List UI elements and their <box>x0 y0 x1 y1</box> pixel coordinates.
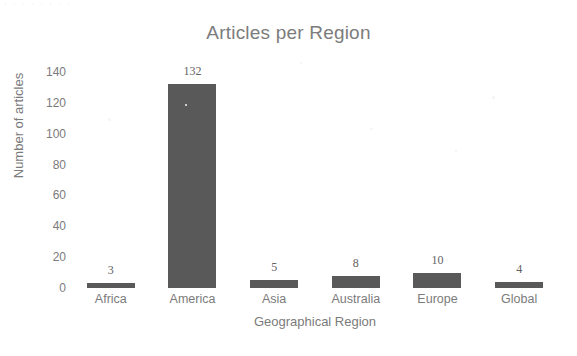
y-axis-tick-label: 100 <box>36 128 66 140</box>
y-axis-tick-labels: 020406080100120140 <box>36 72 66 288</box>
bar-australia[interactable] <box>332 276 380 288</box>
x-axis-tick-label-australia: Australia <box>332 292 381 306</box>
scan-speckle <box>300 62 302 64</box>
bar-value-label: 8 <box>353 257 359 269</box>
bar-america[interactable] <box>168 84 216 288</box>
bar-chart: Articles per Region 020406080100120140 N… <box>0 0 577 356</box>
chart-title: Articles per Region <box>0 22 577 44</box>
y-axis-tick-label: 40 <box>36 220 66 232</box>
bar-europe[interactable] <box>413 273 461 288</box>
x-axis-tick-label-asia: Asia <box>262 292 286 306</box>
x-axis-tick-labels: AfricaAmericaAsiaAustraliaEuropeGlobal <box>70 292 560 310</box>
y-axis-tick-label: 120 <box>36 97 66 109</box>
y-axis-tick-label: 140 <box>36 66 66 78</box>
bar-asia[interactable] <box>250 280 298 288</box>
y-axis-tick-label: 80 <box>36 159 66 171</box>
bar-series: 313258104 <box>70 72 560 288</box>
bar-africa[interactable] <box>87 283 135 288</box>
x-axis-tick-label-global: Global <box>501 292 537 306</box>
y-axis-title: Number of articles <box>11 46 26 206</box>
bar-slot: 5 <box>233 72 315 288</box>
x-axis-tick-label-america: America <box>170 292 216 306</box>
x-axis-tick-label-africa: Africa <box>95 292 127 306</box>
bar-slot: 4 <box>478 72 560 288</box>
bar-value-label: 4 <box>516 263 522 275</box>
bar-slot: 8 <box>315 72 397 288</box>
bar-slot: 10 <box>397 72 479 288</box>
y-axis-tick-label: 60 <box>36 189 66 201</box>
bar-slot: 132 <box>152 72 234 288</box>
bar-value-label: 5 <box>271 261 277 273</box>
y-axis-tick-label: 20 <box>36 251 66 263</box>
bar-value-label: 3 <box>108 264 114 276</box>
x-axis-tick-label-europe: Europe <box>417 292 457 306</box>
bar-value-label: 10 <box>431 254 443 266</box>
bar-value-label: 132 <box>183 65 201 77</box>
x-axis-title: Geographical Region <box>70 314 560 329</box>
bar-slot: 3 <box>70 72 152 288</box>
bar-global[interactable] <box>495 282 543 288</box>
plot-area: 313258104 <box>70 72 560 288</box>
y-axis-tick-label: 0 <box>36 282 66 294</box>
